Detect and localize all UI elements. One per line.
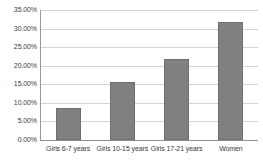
y-tick-label: 10.00% [14,99,37,107]
x-tick-label: Girls 10-15 years [97,144,149,153]
bar-chart: 0.00%5.00%10.00%15.00%20.00%25.00%30.00%… [0,0,263,164]
y-tick-label: 0.00% [18,136,37,144]
bar [110,82,135,140]
y-tick-label: 5.00% [18,117,37,125]
x-axis: Girls 6-7 yearsGirls 10-15 yearsGirls 17… [41,144,258,160]
bar [56,108,81,140]
bar [218,22,243,140]
y-tick-label: 35.00% [14,6,37,14]
x-tick-label: Girls 17-21 years [151,144,203,153]
y-tick-label: 20.00% [14,62,37,70]
y-tick-label: 30.00% [14,25,37,33]
y-tick-label: 25.00% [14,43,37,51]
y-axis: 0.00%5.00%10.00%15.00%20.00%25.00%30.00%… [0,0,39,164]
bars-layer [41,10,258,140]
x-tick-label: Girls 6-7 years [46,144,90,153]
axis-baseline [41,140,258,141]
bar [164,59,189,140]
y-tick-label: 15.00% [14,80,37,88]
x-tick-label: Women [219,144,243,153]
